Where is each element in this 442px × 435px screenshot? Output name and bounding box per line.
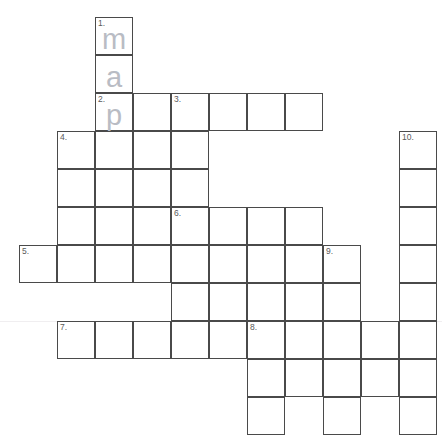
clue-number: 6. <box>174 208 181 218</box>
crossword-cell[interactable] <box>247 397 285 435</box>
crossword-cell[interactable] <box>323 397 361 435</box>
clue-number: 4. <box>60 132 67 142</box>
crossword-cell[interactable] <box>133 93 171 131</box>
crossword-cell[interactable]: 1.m <box>95 17 133 55</box>
crossword-cell[interactable] <box>209 245 247 283</box>
crossword-cell[interactable] <box>247 207 285 245</box>
crossword-cell[interactable] <box>323 359 361 397</box>
crossword-cell[interactable]: 9. <box>323 245 361 283</box>
crossword-cell[interactable] <box>95 169 133 207</box>
crossword-cell[interactable]: a <box>95 55 133 93</box>
crossword-cell[interactable] <box>247 93 285 131</box>
clue-number: 9. <box>326 246 333 256</box>
crossword-cell[interactable] <box>57 207 95 245</box>
crossword-cell[interactable] <box>247 359 285 397</box>
crossword-cell[interactable] <box>323 283 361 321</box>
crossword-cell[interactable] <box>285 245 323 283</box>
crossword-cell[interactable] <box>133 207 171 245</box>
crossword-cell[interactable] <box>95 321 133 359</box>
crossword-cell[interactable] <box>171 283 209 321</box>
crossword-cell[interactable] <box>133 321 171 359</box>
crossword-cell[interactable] <box>399 169 437 207</box>
crossword-cell[interactable]: 4. <box>57 131 95 169</box>
crossword-cell[interactable] <box>95 245 133 283</box>
cell-letter: a <box>96 60 132 94</box>
crossword-cell[interactable] <box>399 207 437 245</box>
clue-number: 7. <box>60 322 67 332</box>
crossword-cell[interactable]: 10. <box>399 131 437 169</box>
crossword-cell[interactable]: 8. <box>247 321 285 359</box>
clue-number: 10. <box>402 132 414 142</box>
crossword-cell[interactable]: 3. <box>171 93 209 131</box>
crossword-cell[interactable] <box>95 131 133 169</box>
crossword-cell[interactable] <box>133 169 171 207</box>
crossword-cell[interactable] <box>247 283 285 321</box>
crossword-cell[interactable] <box>57 169 95 207</box>
crossword-cell[interactable] <box>209 321 247 359</box>
crossword-cell[interactable] <box>171 245 209 283</box>
crossword-cell[interactable] <box>399 321 437 359</box>
clue-number: 5. <box>22 246 29 256</box>
crossword-cell[interactable] <box>171 131 209 169</box>
crossword-cell[interactable] <box>399 245 437 283</box>
crossword-cell[interactable] <box>95 207 133 245</box>
crossword-cell[interactable] <box>285 359 323 397</box>
crossword-cell[interactable] <box>133 245 171 283</box>
crossword-cell[interactable]: 5. <box>19 245 57 283</box>
crossword-cell[interactable] <box>171 321 209 359</box>
clue-number: 3. <box>174 94 181 104</box>
clue-number: 8. <box>250 322 257 332</box>
crossword-cell[interactable] <box>323 321 361 359</box>
crossword-cell[interactable]: 6. <box>171 207 209 245</box>
crossword-cell[interactable] <box>361 321 399 359</box>
crossword-cell[interactable] <box>399 283 437 321</box>
crossword-cell[interactable] <box>399 359 437 397</box>
crossword-cell[interactable]: 7. <box>57 321 95 359</box>
crossword-cell[interactable] <box>57 245 95 283</box>
cell-letter: p <box>96 98 132 132</box>
cell-letter: m <box>96 22 132 56</box>
crossword-cell[interactable] <box>285 283 323 321</box>
crossword-cell[interactable] <box>399 397 437 435</box>
crossword-cell[interactable] <box>285 321 323 359</box>
crossword-cell[interactable] <box>209 93 247 131</box>
crossword-cell[interactable] <box>361 359 399 397</box>
crossword-cell[interactable] <box>171 169 209 207</box>
crossword-cell[interactable] <box>209 283 247 321</box>
crossword-cell[interactable] <box>133 131 171 169</box>
crossword-cell[interactable] <box>285 93 323 131</box>
crossword-cell[interactable] <box>285 207 323 245</box>
crossword-cell[interactable] <box>247 245 285 283</box>
crossword-cell[interactable] <box>209 207 247 245</box>
crossword-cell[interactable]: 2.p <box>95 93 133 131</box>
